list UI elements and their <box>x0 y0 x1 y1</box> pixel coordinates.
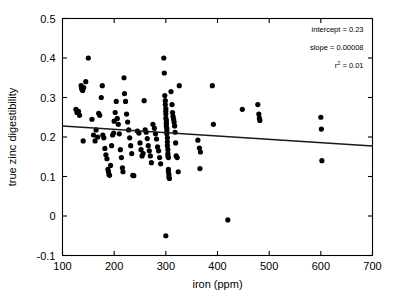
x-axis-title: iron (ppm) <box>192 278 242 290</box>
data-point <box>89 117 94 122</box>
data-point <box>141 151 146 156</box>
data-point <box>124 111 129 116</box>
data-point <box>152 126 157 131</box>
data-point <box>319 127 324 132</box>
data-point <box>100 83 105 88</box>
data-point <box>162 93 167 98</box>
data-point <box>318 115 323 120</box>
x-tick-label: 200 <box>105 260 123 272</box>
data-point <box>114 99 119 104</box>
data-point <box>121 75 126 80</box>
data-point <box>107 173 112 178</box>
data-point <box>113 110 118 115</box>
data-point <box>144 130 149 135</box>
data-point <box>120 169 125 174</box>
data-point <box>156 148 161 153</box>
data-point <box>119 155 124 160</box>
data-point <box>101 135 106 140</box>
y-tick-label: 0.2 <box>40 131 55 143</box>
data-point <box>131 173 136 178</box>
data-point <box>77 113 82 118</box>
data-point <box>125 119 130 124</box>
data-point <box>169 102 174 107</box>
data-point <box>148 153 153 158</box>
y-tick-label: 0.4 <box>40 52 55 64</box>
data-point <box>81 138 86 143</box>
chart-canvas: 100200300400500600700 -0.100.10.20.30.40… <box>0 0 403 306</box>
data-point <box>95 134 100 139</box>
data-point <box>225 217 230 222</box>
data-point <box>240 107 245 112</box>
data-point <box>210 83 215 88</box>
data-point <box>162 70 167 75</box>
data-point <box>122 91 127 96</box>
data-point <box>198 149 203 154</box>
data-point <box>157 155 162 160</box>
data-point <box>175 155 180 160</box>
data-point <box>129 151 134 156</box>
data-point <box>102 146 107 151</box>
y-tick-label: 0.5 <box>40 13 55 25</box>
data-point <box>319 158 324 163</box>
data-point <box>123 99 128 104</box>
data-point <box>137 140 142 145</box>
annotation-intercept: intercept = 0.23 <box>312 25 364 34</box>
data-point <box>127 135 132 140</box>
y-tick-label: -0.1 <box>37 250 56 262</box>
data-point <box>158 161 163 166</box>
data-point <box>86 55 91 60</box>
data-point <box>176 169 181 174</box>
scatter-plot-figure: 100200300400500600700 -0.100.10.20.30.40… <box>0 0 403 306</box>
data-point <box>147 148 152 153</box>
data-point <box>108 163 113 168</box>
data-point <box>149 160 154 165</box>
data-point <box>167 176 172 181</box>
data-point <box>211 122 216 127</box>
data-point <box>195 138 200 143</box>
data-point <box>117 131 122 136</box>
data-point <box>99 95 104 100</box>
data-point <box>146 143 151 148</box>
data-point <box>177 83 182 88</box>
y-tick-label: 0.3 <box>40 92 55 104</box>
x-tick-label: 400 <box>208 260 226 272</box>
data-point <box>109 143 114 148</box>
x-tick-label: 600 <box>312 260 330 272</box>
x-tick-label: 100 <box>53 260 71 272</box>
data-point <box>128 143 133 148</box>
data-point <box>172 123 177 128</box>
data-point <box>163 233 168 238</box>
data-point <box>154 136 159 141</box>
data-point <box>81 85 86 90</box>
y-axis-title: true zinc digestibility <box>6 87 18 186</box>
data-point <box>142 98 147 103</box>
data-point <box>116 122 121 127</box>
annotation-slope: slope = 0.00008 <box>310 43 364 52</box>
data-point <box>166 155 171 160</box>
data-point <box>83 79 88 84</box>
data-point <box>197 166 202 171</box>
x-tick-label: 300 <box>157 260 175 272</box>
data-point <box>257 118 262 123</box>
data-point <box>118 147 123 152</box>
x-tick-label: 500 <box>260 260 278 272</box>
data-point <box>255 102 260 107</box>
y-tick-label: 0.1 <box>40 171 55 183</box>
data-point <box>145 136 150 141</box>
data-point <box>168 89 173 94</box>
x-tick-label: 700 <box>363 260 381 272</box>
y-tick-label: 0 <box>49 210 55 222</box>
data-point <box>161 55 166 60</box>
data-point <box>111 130 116 135</box>
data-point <box>97 113 102 118</box>
data-point <box>173 140 178 145</box>
data-point <box>104 156 109 161</box>
data-point <box>115 116 120 121</box>
